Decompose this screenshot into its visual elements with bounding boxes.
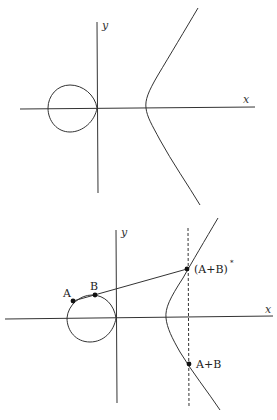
y-axis-label: y xyxy=(101,19,109,32)
bottom-figure: y x A B (A+B) * A+B xyxy=(5,218,273,410)
label-b: B xyxy=(90,280,98,293)
elliptic-curve-diagram: y x y x A B (A+B) * A+B xyxy=(0,0,277,420)
label-a-plus-b: A+B xyxy=(195,358,221,371)
point-a xyxy=(71,299,76,304)
y-axis-label: y xyxy=(120,226,128,239)
label-a-plus-b-star: (A+B) xyxy=(194,263,228,276)
x-axis-label: x xyxy=(265,303,272,316)
point-a-plus-b-star xyxy=(185,267,190,272)
label-a: A xyxy=(62,287,72,300)
curve-branch xyxy=(146,8,200,205)
curve-branch xyxy=(166,218,220,410)
top-figure: y x xyxy=(20,8,255,205)
point-a-plus-b xyxy=(187,362,192,367)
label-a-plus-b-star-superscript: * xyxy=(230,259,234,267)
point-b xyxy=(93,293,98,298)
vertical-reflection-line xyxy=(188,228,189,408)
x-axis-label: x xyxy=(243,93,250,106)
x-axis xyxy=(5,316,273,319)
x-axis xyxy=(20,107,255,109)
